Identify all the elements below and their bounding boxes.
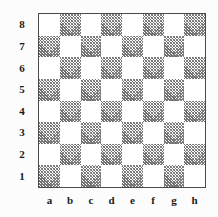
rank-label-6: 6	[10, 57, 34, 79]
board-square-g3[interactable]	[164, 122, 185, 144]
board-square-d7[interactable]	[101, 36, 122, 58]
board-square-g2[interactable]	[164, 144, 185, 166]
board-square-d4[interactable]	[101, 101, 122, 123]
board-square-f7[interactable]	[143, 36, 164, 58]
board-square-h2[interactable]	[184, 144, 205, 166]
board-square-c5[interactable]	[81, 79, 102, 101]
board-square-a8[interactable]	[39, 14, 60, 36]
board-square-h3[interactable]	[184, 122, 205, 144]
board-square-h5[interactable]	[184, 79, 205, 101]
board-square-d3[interactable]	[101, 122, 122, 144]
board-square-g5[interactable]	[164, 79, 185, 101]
board-square-d1[interactable]	[101, 165, 122, 187]
board-square-g4[interactable]	[164, 101, 185, 123]
board-square-h8[interactable]	[184, 14, 205, 36]
file-label-row: abcdefgh	[39, 192, 205, 208]
file-label-f: f	[143, 192, 164, 208]
board-square-a5[interactable]	[39, 79, 60, 101]
board-square-h6[interactable]	[184, 57, 205, 79]
board-square-c7[interactable]	[81, 36, 102, 58]
board-square-b2[interactable]	[60, 144, 81, 166]
board-square-d2[interactable]	[101, 144, 122, 166]
rank-label-1: 1	[10, 165, 34, 187]
board-square-d5[interactable]	[101, 79, 122, 101]
rank-label-5: 5	[10, 79, 34, 101]
board-square-b1[interactable]	[60, 165, 81, 187]
board-square-e1[interactable]	[122, 165, 143, 187]
file-label-h: h	[184, 192, 205, 208]
file-label-a: a	[39, 192, 60, 208]
rank-label-column: 87654321	[10, 14, 34, 187]
board-square-f4[interactable]	[143, 101, 164, 123]
board-square-a3[interactable]	[39, 122, 60, 144]
board-square-f5[interactable]	[143, 79, 164, 101]
board-square-h4[interactable]	[184, 101, 205, 123]
board-square-f6[interactable]	[143, 57, 164, 79]
board-square-g6[interactable]	[164, 57, 185, 79]
board-square-h1[interactable]	[184, 165, 205, 187]
rank-label-2: 2	[10, 144, 34, 166]
chessboard-figure: 87654321 abcdefgh	[0, 0, 218, 217]
board-square-c4[interactable]	[81, 101, 102, 123]
board-square-d8[interactable]	[101, 14, 122, 36]
board-square-b6[interactable]	[60, 57, 81, 79]
board-square-e6[interactable]	[122, 57, 143, 79]
board-square-c1[interactable]	[81, 165, 102, 187]
board-square-h7[interactable]	[184, 36, 205, 58]
board-square-f8[interactable]	[143, 14, 164, 36]
board-frame	[38, 13, 206, 188]
board-square-c6[interactable]	[81, 57, 102, 79]
board-square-c8[interactable]	[81, 14, 102, 36]
board-square-a4[interactable]	[39, 101, 60, 123]
board-square-b5[interactable]	[60, 79, 81, 101]
board-square-a1[interactable]	[39, 165, 60, 187]
board-square-e8[interactable]	[122, 14, 143, 36]
rank-label-3: 3	[10, 122, 34, 144]
file-label-b: b	[60, 192, 81, 208]
board-square-b7[interactable]	[60, 36, 81, 58]
file-label-d: d	[101, 192, 122, 208]
board-square-b3[interactable]	[60, 122, 81, 144]
rank-label-7: 7	[10, 36, 34, 58]
board-square-g7[interactable]	[164, 36, 185, 58]
board-square-a2[interactable]	[39, 144, 60, 166]
board-square-e2[interactable]	[122, 144, 143, 166]
board-square-e4[interactable]	[122, 101, 143, 123]
board-square-e3[interactable]	[122, 122, 143, 144]
board-square-d6[interactable]	[101, 57, 122, 79]
rank-label-4: 4	[10, 101, 34, 123]
board-square-e5[interactable]	[122, 79, 143, 101]
board-square-f2[interactable]	[143, 144, 164, 166]
board-square-c3[interactable]	[81, 122, 102, 144]
board-square-e7[interactable]	[122, 36, 143, 58]
board-square-b8[interactable]	[60, 14, 81, 36]
board-square-g8[interactable]	[164, 14, 185, 36]
board-square-g1[interactable]	[164, 165, 185, 187]
board-square-f1[interactable]	[143, 165, 164, 187]
board-grid[interactable]	[39, 14, 205, 187]
file-label-g: g	[164, 192, 185, 208]
board-square-f3[interactable]	[143, 122, 164, 144]
board-square-b4[interactable]	[60, 101, 81, 123]
rank-label-8: 8	[10, 14, 34, 36]
board-square-a7[interactable]	[39, 36, 60, 58]
file-label-c: c	[81, 192, 102, 208]
board-square-c2[interactable]	[81, 144, 102, 166]
file-label-e: e	[122, 192, 143, 208]
board-square-a6[interactable]	[39, 57, 60, 79]
